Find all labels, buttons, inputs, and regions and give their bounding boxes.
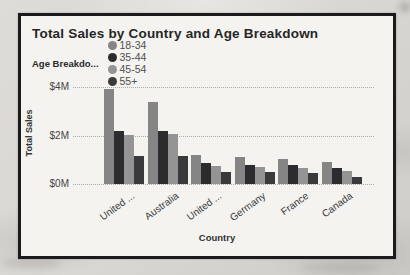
y-tick-label: $0M	[29, 178, 69, 189]
bar-group-germany	[235, 157, 275, 184]
bar-45-54[interactable]	[342, 171, 352, 184]
bar-35-44[interactable]	[332, 168, 342, 184]
bar-18-34[interactable]	[278, 159, 288, 184]
y-axis-title: Total Sales	[24, 98, 34, 168]
bar-group-united-	[191, 155, 231, 184]
bar-45-54[interactable]	[255, 167, 265, 184]
bar-55+[interactable]	[178, 156, 188, 184]
bar-group-united-	[104, 89, 144, 184]
bar-18-34[interactable]	[104, 89, 114, 184]
bar-35-44[interactable]	[245, 165, 255, 184]
photo-smudge	[300, 264, 380, 272]
bar-55+[interactable]	[265, 172, 275, 184]
chart-card: Total Sales by Country and Age Breakdown…	[18, 13, 396, 259]
bar-group-canada	[322, 162, 362, 184]
bar-18-34[interactable]	[322, 162, 332, 184]
bar-35-44[interactable]	[288, 165, 298, 184]
bar-18-34[interactable]	[148, 102, 158, 184]
photo-background: Total Sales by Country and Age Breakdown…	[0, 0, 410, 275]
bar-18-34[interactable]	[235, 157, 245, 184]
plot-area: $0M$2M$4M Total Sales United ...Australi…	[21, 16, 393, 256]
y-tick-label: $4M	[29, 81, 69, 92]
bar-group-australia	[148, 102, 188, 184]
bar-55+[interactable]	[221, 172, 231, 184]
bar-45-54[interactable]	[124, 135, 134, 184]
bar-18-34[interactable]	[191, 155, 201, 184]
bar-45-54[interactable]	[168, 134, 178, 184]
gridline	[73, 184, 374, 185]
bar-55+[interactable]	[134, 156, 144, 184]
bar-45-54[interactable]	[298, 168, 308, 184]
y-tick-label: $2M	[29, 130, 69, 141]
bar-35-44[interactable]	[114, 131, 124, 184]
photo-smudge	[2, 258, 62, 268]
bar-55+[interactable]	[352, 177, 362, 184]
bar-35-44[interactable]	[158, 131, 168, 184]
photo-smudge	[399, 2, 410, 12]
bar-55+[interactable]	[308, 173, 318, 184]
bar-group-france	[278, 159, 318, 184]
bar-45-54[interactable]	[211, 166, 221, 184]
x-axis-title: Country	[167, 232, 267, 243]
bar-35-44[interactable]	[201, 163, 211, 184]
gridline	[73, 87, 374, 88]
